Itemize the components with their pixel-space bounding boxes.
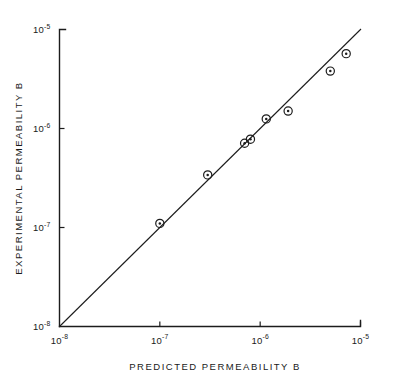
data-point-center: [159, 222, 162, 225]
data-point-center: [206, 174, 209, 177]
data-point-center: [265, 118, 268, 121]
scatter-plot: 10-810-710-610-5 10-810-710-610-5 PREDIC…: [0, 0, 393, 378]
y-axis-title: EXPERIMENTAL PERMEABILITY B: [13, 81, 24, 274]
data-point-center: [249, 138, 252, 141]
data-point-center: [287, 110, 290, 113]
data-point-center: [329, 70, 332, 73]
x-axis-title: PREDICTED PERMEABILITY B: [129, 361, 301, 372]
data-point-center: [345, 52, 348, 55]
chart-figure: 10-810-710-610-5 10-810-710-610-5 PREDIC…: [0, 0, 393, 378]
data-point-center: [243, 142, 246, 145]
